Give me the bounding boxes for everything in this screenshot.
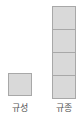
block [52,53,76,76]
label-gyuseong: 규성 [5,101,35,114]
block [52,30,76,53]
stack-gyujong [52,6,76,99]
label-gyujong: 규종 [49,101,79,114]
block [52,6,76,30]
block [52,76,76,99]
block [8,73,32,96]
stack-gyuseong [8,73,32,96]
